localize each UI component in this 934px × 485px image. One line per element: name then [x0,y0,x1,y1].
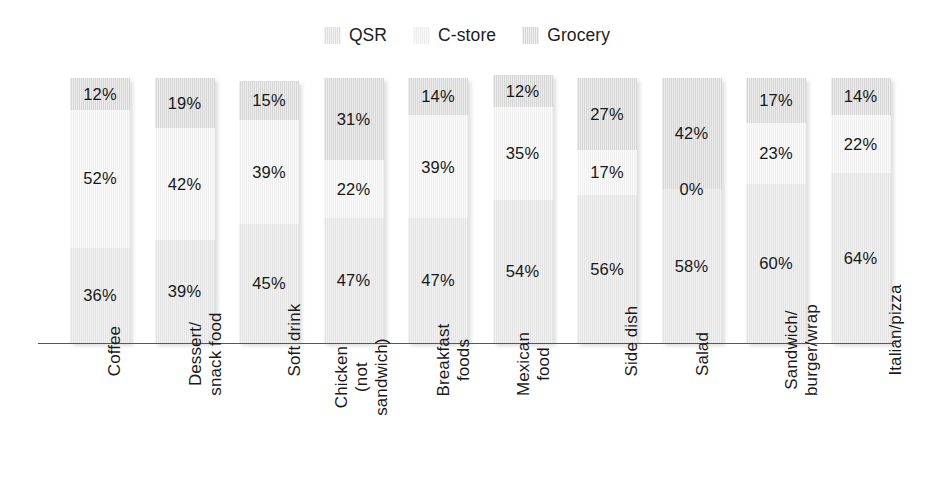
bar-segment-cstore[interactable]: 23% [746,123,806,184]
segment-value-label: 56% [590,261,624,278]
segment-value-label: 39% [168,283,202,300]
segment-value-label: 19% [168,95,202,112]
bar-segment-qsr[interactable]: 47% [324,218,384,343]
segment-value-label: 36% [83,287,117,304]
segment-value-label: 15% [252,92,286,109]
category-label: Breakfastfoods [408,352,468,480]
bar-segment-grocery[interactable]: 12% [493,75,553,107]
category-label: Italian/pizza [831,352,891,480]
bar-segment-grocery[interactable]: 42% [662,78,722,189]
bar-segment-qsr[interactable]: 54% [493,200,553,343]
category-label-text: Sandwich/burger/wrap [782,304,822,396]
segment-value-label: 14% [844,88,878,105]
category-label-text: Breakfastfoods [434,323,474,396]
category-label-text: Italian/pizza [886,285,906,376]
segment-value-label: 17% [590,164,624,181]
plot-area: 12%52%36%19%42%39%15%39%45%31%22%47%14%3… [0,0,934,485]
bar-segment-grocery[interactable]: 12% [70,78,130,110]
bar-column[interactable]: 27%17%56% [577,78,637,343]
category-label-text: Chicken(notsandwich) [332,339,392,416]
bar-segment-cstore[interactable]: 17% [577,150,637,195]
segment-value-label: 47% [421,272,455,289]
category-label: Side dish [577,352,637,480]
bar-column[interactable]: 19%42%39% [155,78,215,343]
segment-value-label: 47% [337,272,371,289]
segment-value-label: 64% [844,250,878,267]
segment-value-label: 27% [590,106,624,123]
category-label-text: Mexicanfood [514,332,554,396]
segment-value-label: 42% [675,125,709,142]
segment-value-label: 45% [252,275,286,292]
bar-segment-grocery[interactable]: 19% [155,78,215,128]
segment-value-label: 39% [421,159,455,176]
bar-segment-grocery[interactable]: 14% [831,78,891,115]
bar-segment-cstore[interactable]: 42% [155,128,215,239]
segment-value-label: 0% [679,181,703,198]
segment-value-label: 54% [506,263,540,280]
segment-value-label: 60% [759,255,793,272]
segment-value-label: 17% [759,92,793,109]
bar-segment-cstore[interactable]: 22% [324,160,384,218]
category-label: Salad [662,352,722,480]
category-label-text: Salad [693,332,713,376]
bar-column[interactable]: 12%35%54% [493,75,553,343]
bar-column[interactable]: 14%22%64% [831,78,891,343]
category-label: Sandwich/burger/wrap [746,352,806,480]
bar-segment-cstore[interactable]: 35% [493,107,553,200]
segment-value-label: 58% [675,258,709,275]
bar-segment-qsr[interactable]: 64% [831,173,891,343]
segment-value-label: 39% [252,164,286,181]
category-label: Mexicanfood [493,352,553,480]
segment-value-label: 31% [337,111,371,128]
bar-column[interactable]: 14%39%47% [408,78,468,343]
bar-segment-grocery[interactable]: 17% [746,78,806,123]
bar-segment-grocery[interactable]: 14% [408,78,468,115]
segment-value-label: 35% [506,145,540,162]
category-label-text: Soft drink [285,303,305,376]
segment-value-label: 22% [844,136,878,153]
bar-column[interactable]: 12%52%36% [70,78,130,343]
category-label-text: Side dish [622,305,642,376]
segment-value-label: 14% [421,88,455,105]
bar-segment-grocery[interactable]: 31% [324,78,384,160]
category-label: Coffee [70,352,130,480]
category-label: Dessert/snack food [155,352,215,480]
segment-value-label: 52% [83,170,117,187]
bar-segment-grocery[interactable]: 27% [577,78,637,150]
bar-column[interactable]: 31%22%47% [324,78,384,343]
category-label-text: Dessert/snack food [186,313,226,396]
bar-segment-grocery[interactable]: 15% [239,81,299,121]
bar-segment-cstore[interactable]: 52% [70,110,130,248]
bar-column[interactable]: 42%0%58% [662,78,722,343]
category-label-text: Coffee [105,326,125,376]
category-label: Chicken(notsandwich) [324,352,384,480]
bar-segment-qsr[interactable]: 58% [662,189,722,343]
segment-value-label: 12% [506,83,540,100]
segment-value-label: 23% [759,145,793,162]
segment-value-label: 22% [337,181,371,198]
segment-value-label: 42% [168,176,202,193]
bar-segment-cstore[interactable]: 39% [239,120,299,223]
bar-segment-cstore[interactable]: 39% [408,115,468,218]
bar-segment-cstore[interactable]: 22% [831,115,891,173]
stacked-bar-chart: QSR C-store Grocery 12%52%36%19%42%39%15… [0,0,934,485]
category-label: Soft drink [239,352,299,480]
segment-value-label: 12% [83,86,117,103]
